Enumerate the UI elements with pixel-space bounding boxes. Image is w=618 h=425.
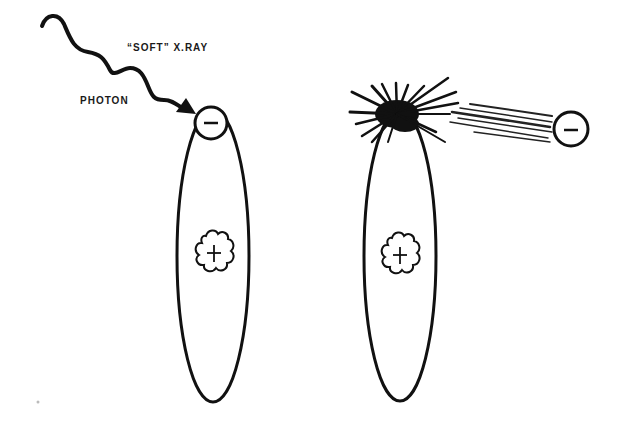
scan-speck (37, 401, 40, 404)
nucleus-left (196, 230, 234, 271)
electron-left (195, 107, 227, 139)
nucleus-right (382, 232, 420, 273)
photoelectric-diagram: “SOFT” X.RAY PHOTON − + − + (0, 0, 618, 425)
diagram-canvas (0, 0, 618, 425)
electron-trail-icon (450, 104, 552, 142)
electron-right (554, 112, 588, 146)
panel-after (350, 78, 588, 401)
soft-xray-label: “SOFT” X.RAY (127, 43, 208, 53)
photon-label: PHOTON (80, 96, 129, 106)
impact-burst-icon (350, 78, 458, 142)
panel-before (42, 16, 249, 402)
